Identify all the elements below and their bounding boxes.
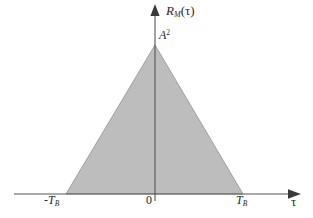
y-axis-arrowhead-icon	[150, 4, 159, 16]
peak-value-exponent: 2	[166, 28, 170, 37]
right-tick-base: T	[236, 193, 243, 207]
y-axis-label: RM(τ)	[166, 4, 195, 19]
y-axis-label-argument: (τ)	[181, 3, 195, 18]
y-axis-label-subscript: M	[174, 10, 181, 19]
left-tick-subscript: B	[55, 199, 60, 208]
right-tick-subscript: B	[243, 199, 248, 208]
right-tick-label: TB	[236, 194, 247, 208]
y-axis-label-base: R	[166, 3, 174, 18]
autocorrelation-plot	[0, 0, 313, 218]
figure-container: RM(τ) A2 0 -TB TB τ	[0, 0, 313, 218]
origin-tick-label: 0	[146, 194, 152, 206]
x-axis-label: τ	[291, 195, 296, 208]
left-tick-label: -TB	[44, 194, 59, 208]
left-tick-base: T	[48, 193, 55, 207]
peak-value-label: A2	[159, 29, 170, 41]
